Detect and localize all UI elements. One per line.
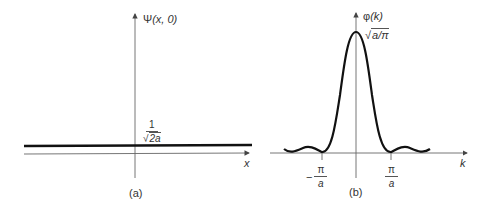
x-horizontal-axis [24, 153, 249, 154]
psi-axis-label: Ψ(x, 0) [143, 14, 177, 25]
level-numerator: 1 [146, 120, 158, 132]
peak-label-sqrt-a-over-pi: √a/π [365, 30, 389, 41]
phi-axis-label: φ(k) [363, 11, 383, 22]
figure-canvas [0, 0, 482, 211]
numerator: π [385, 165, 398, 177]
numerator: π [314, 165, 327, 177]
panel-a-plot [24, 14, 252, 178]
psi-args: (x, 0) [152, 13, 177, 25]
level-label-one-over-sqrt-2a: 1 √2a [143, 120, 161, 144]
radical-sign: √ [143, 133, 149, 144]
caption-a: (a) [129, 188, 142, 199]
radicand: 2a [149, 132, 161, 144]
caption-b: (b) [349, 187, 362, 198]
tick-label-pi-over-a: π a [385, 165, 398, 189]
fraction: π a [314, 165, 327, 189]
tick-label-minus-pi-over-a: − π a [306, 165, 327, 189]
radicand: a/π [371, 28, 389, 41]
x-axis-label: x [244, 158, 250, 169]
psi-symbol: Ψ [143, 13, 152, 25]
minus-sign: − [306, 172, 312, 183]
k-axis-label: k [460, 158, 466, 169]
denominator: a [389, 177, 395, 189]
level-denominator: √2a [143, 132, 161, 144]
denominator: a [318, 177, 324, 189]
psi-constant-line [24, 145, 252, 146]
phi-args: (k) [370, 10, 383, 22]
phi-sinc-curve [284, 32, 430, 152]
